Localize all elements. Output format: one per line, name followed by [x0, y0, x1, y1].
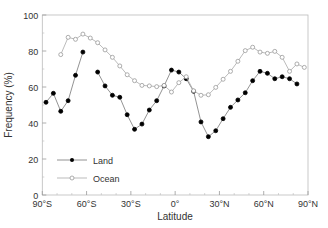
plot-frame: [42, 15, 308, 195]
data-point: [59, 53, 63, 57]
data-point: [103, 48, 107, 52]
data-point: [96, 41, 100, 45]
y-tick-label: 20: [28, 155, 38, 165]
data-point: [155, 85, 159, 89]
data-point: [118, 64, 122, 68]
data-point: [199, 93, 203, 97]
data-point: [214, 129, 218, 133]
data-point: [258, 50, 262, 54]
data-point: [221, 117, 225, 121]
data-point: [133, 79, 137, 83]
data-point: [192, 89, 196, 93]
data-point: [44, 100, 48, 104]
legend-item-land: Land: [57, 156, 113, 166]
data-point: [273, 49, 277, 53]
data-point: [280, 75, 284, 79]
data-point: [81, 32, 85, 36]
legend-item-ocean: Ocean: [57, 174, 120, 184]
data-point: [229, 69, 233, 73]
x-tick-label: 90°S: [32, 199, 52, 209]
x-tick-label: 0°: [171, 199, 180, 209]
data-point: [206, 93, 210, 97]
data-point: [258, 69, 262, 73]
data-point: [169, 90, 173, 94]
y-tick-label: 100: [23, 11, 38, 21]
data-point: [51, 91, 55, 95]
data-point: [206, 135, 210, 139]
data-point: [288, 69, 292, 73]
data-point: [147, 108, 151, 112]
data-point: [302, 65, 306, 69]
filled-circle-marker-icon: [70, 158, 74, 162]
data-point: [236, 98, 240, 102]
x-axis-label: Latitude: [157, 211, 193, 222]
legend-label-ocean: Ocean: [93, 174, 120, 184]
data-point: [103, 84, 107, 88]
data-point: [125, 113, 129, 117]
data-point: [140, 122, 144, 126]
series-ocean: [59, 32, 307, 97]
data-point: [265, 71, 269, 75]
data-point: [280, 55, 284, 59]
data-point: [251, 45, 255, 49]
legend-label-land: Land: [93, 156, 113, 166]
y-tick-label: 60: [28, 83, 38, 93]
data-point: [295, 62, 299, 66]
data-point: [118, 95, 122, 99]
data-point: [169, 68, 173, 72]
data-point: [288, 77, 292, 81]
data-point: [110, 93, 114, 97]
data-point: [273, 77, 277, 81]
x-tick-label: 30°N: [209, 199, 229, 209]
data-point: [162, 83, 166, 87]
data-point: [177, 70, 181, 74]
plot-axes: 02040608010090°S60°S30°S0°30°N60°N90°N: [23, 11, 318, 210]
data-point: [295, 82, 299, 86]
data-point: [147, 84, 151, 88]
data-point: [229, 105, 233, 109]
data-point: [59, 109, 63, 113]
data-point: [133, 127, 137, 131]
data-point: [96, 70, 100, 74]
open-circle-marker-icon: [70, 176, 74, 180]
y-tick-label: 80: [28, 47, 38, 57]
data-point: [155, 99, 159, 103]
data-point: [177, 81, 181, 85]
data-point: [236, 59, 240, 63]
y-axis-label: Frequency (%): [3, 72, 14, 138]
data-point: [110, 55, 114, 59]
data-point: [88, 36, 92, 40]
data-point: [243, 91, 247, 95]
data-point: [243, 49, 247, 53]
x-tick-label: 60°S: [77, 199, 97, 209]
data-point: [199, 120, 203, 124]
x-tick-label: 30°S: [121, 199, 141, 209]
data-point: [184, 75, 188, 79]
x-tick-label: 90°N: [298, 199, 318, 209]
data-point: [66, 35, 70, 39]
data-point: [251, 79, 255, 83]
data-point: [66, 99, 70, 103]
data-point: [125, 73, 129, 77]
x-tick-label: 60°N: [254, 199, 274, 209]
data-point: [140, 83, 144, 87]
line-chart: 02040608010090°S60°S30°S0°30°N60°N90°N L…: [0, 0, 328, 228]
data-point: [214, 85, 218, 89]
legend: Land Ocean: [57, 156, 120, 184]
data-point: [74, 37, 78, 41]
y-tick-label: 40: [28, 119, 38, 129]
data-point: [221, 77, 225, 81]
data-series: [44, 32, 306, 139]
data-point: [265, 51, 269, 55]
data-point: [74, 73, 78, 77]
data-point: [81, 50, 85, 54]
